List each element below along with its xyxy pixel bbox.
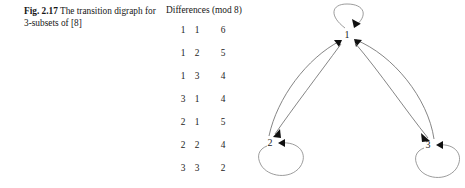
edge-1-to-2 xyxy=(275,44,341,134)
cell-b: 2 xyxy=(193,140,201,150)
cell-b: 3 xyxy=(193,71,201,81)
cell-b: 2 xyxy=(193,48,201,58)
graph-node-1[interactable]: 1 xyxy=(345,29,350,40)
table-row: 2 2 4 xyxy=(166,140,266,163)
cell-a: 2 xyxy=(179,140,187,150)
cell-b: 1 xyxy=(193,25,201,35)
edge-2-to-1 xyxy=(269,41,340,136)
table-row: 1 2 5 xyxy=(166,48,266,71)
cell-difference: 4 xyxy=(219,94,227,104)
cell-difference: 5 xyxy=(219,117,227,127)
cell-difference: 5 xyxy=(219,48,227,58)
differences-table-header: Differences (mod 8) xyxy=(166,4,266,16)
table-row: 3 3 2 xyxy=(166,163,266,186)
arrow-head-edge-1-to-2 xyxy=(273,129,281,138)
cell-difference: 4 xyxy=(219,71,227,81)
edge-3-to-1 xyxy=(356,40,434,139)
cell-b: 3 xyxy=(193,163,201,173)
arrow-head-loop-2 xyxy=(278,139,285,147)
cell-a: 2 xyxy=(179,117,187,127)
cell-a: 1 xyxy=(179,48,187,58)
differences-table-body: 1 1 6 1 2 5 1 3 4 3 1 4 2 1 5 2 2 4 xyxy=(166,25,266,186)
table-row: 2 1 5 xyxy=(166,117,266,140)
arrow-head-loop-1 xyxy=(349,19,361,30)
figure-number: Fig. 2.17 xyxy=(24,6,58,16)
graph-node-2[interactable]: 2 xyxy=(268,137,273,148)
table-row: 3 1 4 xyxy=(166,94,266,117)
cell-b: 1 xyxy=(193,117,201,127)
cell-a: 3 xyxy=(179,94,187,104)
figure-caption: Fig. 2.17 The transition digraph for 3-s… xyxy=(24,5,164,30)
edge-1-to-3 xyxy=(355,43,428,138)
cell-difference: 2 xyxy=(219,163,227,173)
cell-a: 1 xyxy=(179,71,187,81)
cell-a: 3 xyxy=(179,163,187,173)
transition-digraph: 1 2 3 xyxy=(255,0,465,188)
self-loop-node-3 xyxy=(416,145,460,178)
cell-difference: 6 xyxy=(219,25,227,35)
graph-node-3[interactable]: 3 xyxy=(426,139,431,150)
differences-table: Differences (mod 8) 1 1 6 1 2 5 1 3 4 3 … xyxy=(166,4,266,186)
table-row: 1 1 6 xyxy=(166,25,266,48)
self-loop-node-2 xyxy=(259,143,304,176)
cell-difference: 4 xyxy=(219,140,227,150)
cell-b: 1 xyxy=(193,94,201,104)
table-row: 1 3 4 xyxy=(166,71,266,94)
cell-a: 1 xyxy=(179,25,187,35)
arrow-head-loop-3 xyxy=(436,141,443,149)
